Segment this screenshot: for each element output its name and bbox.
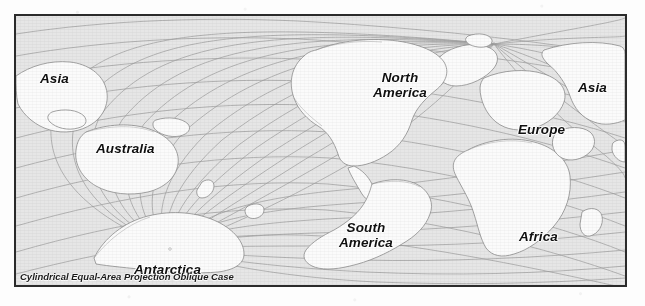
world-map-graphic [16,16,625,285]
figure-caption: Cylindrical Equal-Area Projection Obliqu… [20,271,234,282]
figure-page: Asia Australia NorthAmerica Asia Europe … [0,0,645,306]
map-frame: Asia Australia NorthAmerica Asia Europe … [14,14,627,287]
